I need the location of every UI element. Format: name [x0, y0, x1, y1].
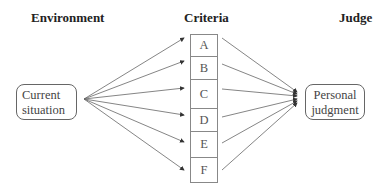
criterion-b: B [190, 56, 218, 80]
criterion-e: E [190, 131, 218, 158]
node-line: Personal [311, 88, 359, 103]
criterion-d: D [190, 108, 218, 132]
node-line: Current [22, 88, 71, 103]
header-environment: Environment [31, 10, 104, 26]
personal-judgment-node: Personal judgment [305, 84, 365, 120]
criterion-a: A [190, 34, 218, 57]
arrow-env-to-d [84, 99, 184, 115]
header-judge: Judge [339, 10, 372, 26]
header-criteria: Criteria [184, 10, 229, 26]
arrow-c-to-judge [222, 89, 297, 96]
criterion-c: C [190, 79, 218, 109]
arrow-env-to-e [84, 99, 184, 142]
arrow-b-to-judge [222, 64, 297, 94]
node-line: situation [22, 103, 71, 118]
arrow-env-to-f [84, 99, 184, 170]
criterion-f: F [190, 157, 218, 183]
arrow-d-to-judge [222, 99, 297, 117]
arrow-a-to-judge [222, 38, 297, 92]
current-situation-node: Current situation [16, 84, 77, 120]
node-line: judgment [311, 103, 359, 118]
